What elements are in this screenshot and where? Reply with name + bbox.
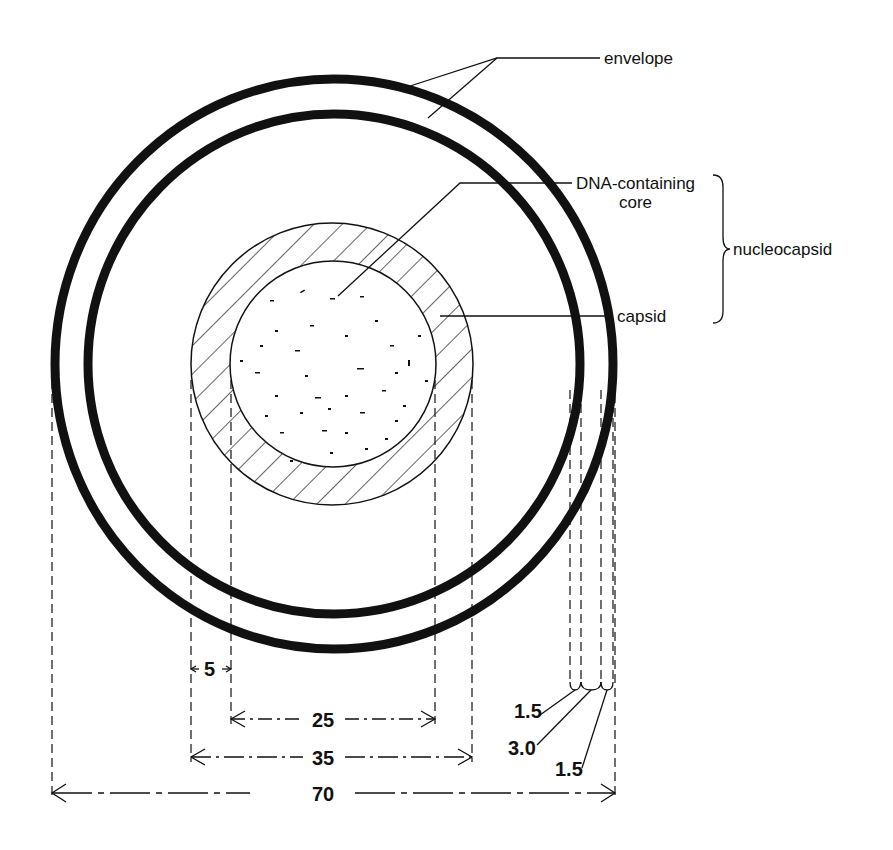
dim-70-label: 70 [312,783,334,805]
nucleocapsid-brace [713,175,730,323]
envelope-leader [404,58,600,88]
label-nucleocapsid: nucleocapsid [733,240,832,259]
dim-25-label: 25 [312,709,334,731]
virus-diagram: envelope DNA-containing core capsid nucl… [0,0,893,850]
membrane-brackets [537,682,613,768]
dim-5-label: 5 [204,658,215,680]
dna-core [230,261,436,467]
label-core-line2: core [619,193,652,212]
dim-inner-membrane-label: 1.5 [555,758,583,780]
dim-35-label: 35 [312,747,334,769]
label-capsid: capsid [617,307,666,326]
label-envelope: envelope [604,49,673,68]
dim-intermembrane-label: 3.0 [508,737,536,759]
dim-outer-membrane-label: 1.5 [514,700,542,722]
label-core-line1: DNA-containing [576,174,695,193]
